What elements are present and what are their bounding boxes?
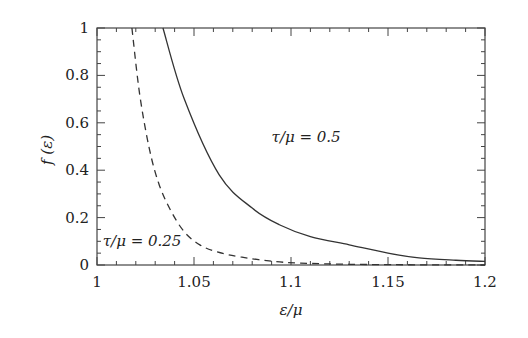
annotations: τ/μ = 0.5τ/μ = 0.25 — [103, 128, 341, 250]
y-tick-label: 0 — [79, 256, 89, 274]
x-tick-label: 1.05 — [177, 273, 210, 291]
series-tau-0.25-dashed — [132, 28, 485, 265]
y-axis-label: f (ε) — [38, 135, 56, 166]
x-tick-label: 1 — [92, 273, 102, 291]
y-tick-label: 1 — [79, 19, 89, 37]
y-tick-label: 0.4 — [65, 161, 89, 179]
x-tick-label: 1.2 — [473, 273, 497, 291]
series-lines — [132, 28, 485, 265]
tick-labels: 11.051.11.151.200.20.40.60.81 — [65, 19, 497, 291]
y-tick-label: 0.6 — [65, 114, 89, 132]
y-tick-label: 0.2 — [65, 209, 89, 227]
annotation-tau-0.25: τ/μ = 0.25 — [103, 232, 182, 250]
chart: 11.051.11.151.200.20.40.60.81 τ/μ = 0.5τ… — [0, 0, 528, 338]
x-tick-label: 1.15 — [371, 273, 404, 291]
y-tick-label: 0.8 — [65, 66, 89, 84]
annotation-tau-0.5: τ/μ = 0.5 — [272, 128, 341, 146]
x-tick-label: 1.1 — [279, 273, 303, 291]
x-axis-label: ε/μ — [280, 301, 303, 319]
